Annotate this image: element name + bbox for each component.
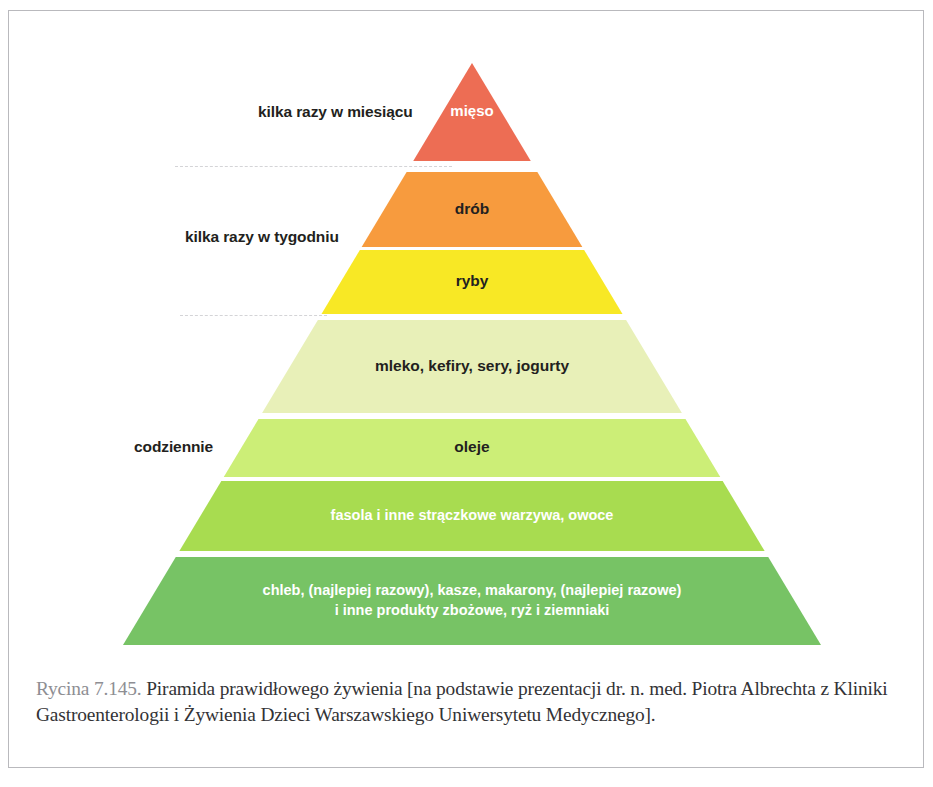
figure-caption: Rycina 7.145. Piramida prawidłowego żywi…	[36, 676, 898, 727]
frequency-label-daily: codziennie	[134, 438, 213, 456]
pyramid-tier-label-meat: mięso	[450, 102, 493, 119]
frequency-label-monthly: kilka razy w miesiącu	[258, 103, 413, 121]
figure-page: mięsodróbrybymleko, kefiry, sery, jogurt…	[0, 0, 933, 787]
caption-text: Piramida prawidłowego żywienia [na podst…	[36, 678, 887, 725]
food-pyramid-figure: mięsodróbrybymleko, kefiry, sery, jogurt…	[0, 0, 933, 665]
caption-reference: Rycina 7.145.	[36, 678, 142, 699]
leader-line-monthly	[175, 166, 452, 167]
pyramid-tier-label-poultry: drób	[455, 200, 489, 217]
pyramid-tier-label-fish: ryby	[456, 272, 489, 289]
pyramid-tier-label-legumes: fasola i inne strączkowe warzywa, owoce	[331, 507, 614, 523]
pyramid-tiers	[123, 63, 821, 645]
pyramid-tier-label-dairy: mleko, kefiry, sery, jogurty	[375, 357, 569, 374]
pyramid-graphic: mięsodróbrybymleko, kefiry, sery, jogurt…	[0, 0, 933, 665]
leader-line-weekly	[180, 315, 327, 316]
frequency-label-weekly: kilka razy w tygodniu	[185, 228, 339, 246]
pyramid-tier-label-oils: oleje	[454, 438, 490, 455]
